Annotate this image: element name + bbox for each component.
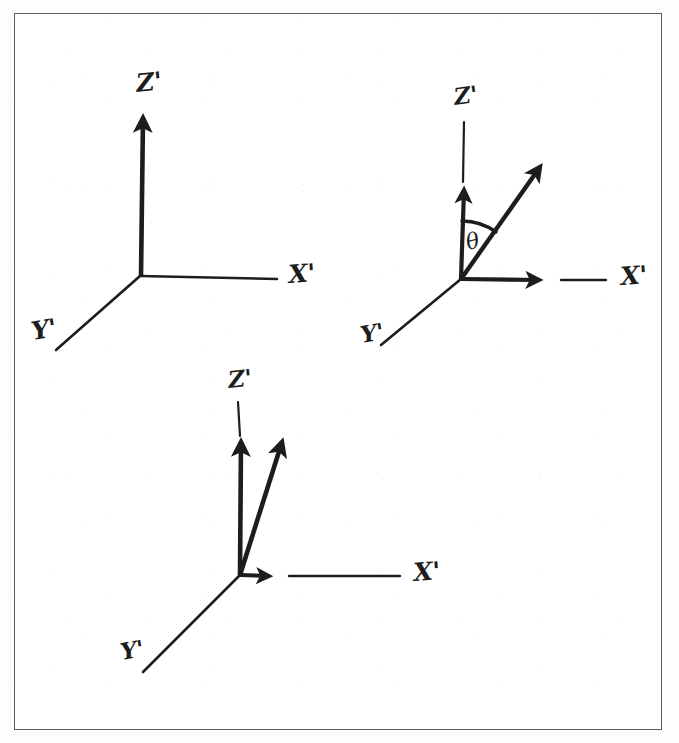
panel-c-z-prime-unit-vector bbox=[240, 442, 241, 575]
panel-c-y-prime-axis bbox=[143, 575, 240, 672]
panel-b: Z' X' Y' θ bbox=[358, 80, 648, 348]
figure-page: Z' X' Y' Z' X' Y' θ bbox=[0, 0, 679, 743]
panel-a-y-prime-axis bbox=[56, 276, 140, 350]
panel-a-z-prime-axis bbox=[141, 118, 143, 277]
panel-c-x-prime-unit-vector bbox=[240, 575, 269, 576]
panel-a: Z' X' Y' bbox=[29, 66, 316, 350]
panel-c-y-label: Y' bbox=[118, 634, 146, 665]
panel-a-x-prime-axis bbox=[140, 276, 277, 279]
panel-c-x-label: X' bbox=[410, 556, 441, 587]
coordinate-axes-figure: Z' X' Y' Z' X' Y' θ bbox=[0, 0, 679, 743]
panel-c-z-prime-axis bbox=[238, 402, 240, 436]
panel-c: Z' X' Y' bbox=[118, 364, 441, 672]
panel-b-z-prime-axis bbox=[463, 122, 464, 182]
panel-a-y-label: Y' bbox=[29, 313, 59, 346]
panel-b-z-label: Z' bbox=[451, 80, 479, 110]
panel-b-theta-label: θ bbox=[463, 227, 482, 254]
panel-a-x-label: X' bbox=[285, 258, 316, 289]
panel-c-rotated-vector bbox=[240, 442, 282, 575]
panel-b-x-prime-unit-vector bbox=[461, 279, 539, 280]
panel-c-z-label: Z' bbox=[226, 364, 254, 393]
panel-b-x-label: X' bbox=[617, 260, 648, 291]
panel-b-y-label: Y' bbox=[358, 317, 386, 348]
panel-a-z-label: Z' bbox=[134, 66, 164, 98]
panel-b-y-prime-axis bbox=[381, 279, 461, 345]
